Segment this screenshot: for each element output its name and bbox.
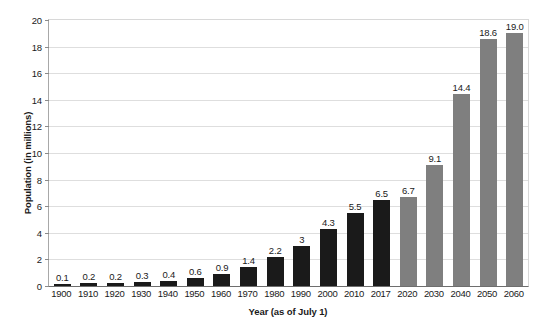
x-tick-label: 1920 bbox=[101, 288, 128, 299]
bar[interactable] bbox=[107, 283, 124, 286]
x-tick-label: 1910 bbox=[75, 288, 102, 299]
bar-value-label: 0.6 bbox=[189, 266, 202, 277]
bar-group: 0.9 bbox=[209, 20, 236, 286]
x-tick-label: 2060 bbox=[500, 288, 527, 299]
bar-group: 14.4 bbox=[448, 20, 475, 286]
bar-group: 9.1 bbox=[422, 20, 449, 286]
bar[interactable] bbox=[480, 39, 497, 286]
x-tick-label: 2030 bbox=[421, 288, 448, 299]
bar[interactable] bbox=[134, 282, 151, 286]
x-tick-label: 1970 bbox=[234, 288, 261, 299]
population-bar-chart: Population (in millions) 024681012141618… bbox=[0, 0, 539, 326]
y-tick-mark bbox=[45, 286, 49, 287]
bar-group: 3 bbox=[289, 20, 316, 286]
x-tick-label: 1960 bbox=[208, 288, 235, 299]
y-tick-label: 12 bbox=[32, 121, 42, 132]
bar[interactable] bbox=[320, 229, 337, 286]
bar[interactable] bbox=[426, 165, 443, 286]
bar-group: 2.2 bbox=[262, 20, 289, 286]
bar[interactable] bbox=[213, 274, 230, 286]
x-tick-label: 1900 bbox=[48, 288, 75, 299]
bar[interactable] bbox=[293, 246, 310, 286]
bar-group: 0.2 bbox=[102, 20, 129, 286]
bar-value-label: 0.4 bbox=[162, 269, 175, 280]
bar[interactable] bbox=[267, 257, 284, 286]
y-tick-label: 0 bbox=[37, 281, 42, 292]
bar-value-label: 5.5 bbox=[349, 201, 362, 212]
bar[interactable] bbox=[400, 197, 417, 286]
y-tick-label: 6 bbox=[37, 201, 42, 212]
bar-group: 6.5 bbox=[368, 20, 395, 286]
x-tick-label: 1940 bbox=[154, 288, 181, 299]
x-tick-label: 1930 bbox=[128, 288, 155, 299]
bar-value-label: 0.2 bbox=[83, 271, 96, 282]
y-tick-label: 20 bbox=[32, 15, 42, 26]
bar[interactable] bbox=[160, 281, 177, 286]
bar-value-label: 0.1 bbox=[56, 272, 69, 283]
bar-value-label: 0.3 bbox=[136, 270, 149, 281]
bar-group: 0.4 bbox=[155, 20, 182, 286]
bar-value-label: 6.7 bbox=[402, 185, 415, 196]
bar[interactable] bbox=[347, 213, 364, 286]
y-tick-label: 18 bbox=[32, 41, 42, 52]
bar[interactable] bbox=[240, 267, 257, 286]
x-tick-label: 2020 bbox=[394, 288, 421, 299]
bar-group: 0.6 bbox=[182, 20, 209, 286]
bar-value-label: 9.1 bbox=[429, 153, 442, 164]
x-tick-label: 2010 bbox=[341, 288, 368, 299]
bar-group: 0.3 bbox=[129, 20, 156, 286]
x-tick-label: 2000 bbox=[314, 288, 341, 299]
x-tick-label: 1990 bbox=[288, 288, 315, 299]
bar-value-label: 4.3 bbox=[322, 217, 335, 228]
bar-value-label: 18.6 bbox=[479, 27, 497, 38]
y-tick-label: 2 bbox=[37, 254, 42, 265]
bar-group: 18.6 bbox=[475, 20, 502, 286]
bar-group: 19.0 bbox=[501, 20, 528, 286]
bar[interactable] bbox=[187, 278, 204, 286]
x-tick-label: 1950 bbox=[181, 288, 208, 299]
bar[interactable] bbox=[506, 33, 523, 286]
y-tick-label: 8 bbox=[37, 174, 42, 185]
x-axis-ticks: 1900191019201930194019501960197019801990… bbox=[48, 288, 527, 302]
bar-group: 1.4 bbox=[235, 20, 262, 286]
bars-layer: 0.10.20.20.30.40.60.91.42.234.35.56.56.7… bbox=[49, 20, 528, 286]
bar[interactable] bbox=[453, 94, 470, 286]
bar-value-label: 0.2 bbox=[109, 271, 122, 282]
bar[interactable] bbox=[80, 283, 97, 286]
y-tick-label: 16 bbox=[32, 68, 42, 79]
bar[interactable] bbox=[373, 200, 390, 286]
bar-value-label: 14.4 bbox=[453, 82, 471, 93]
bar-group: 4.3 bbox=[315, 20, 342, 286]
y-tick-label: 14 bbox=[32, 94, 42, 105]
plot-area: 02468101214161820 0.10.20.20.30.40.60.91… bbox=[48, 19, 529, 287]
x-tick-label: 2050 bbox=[474, 288, 501, 299]
bar[interactable] bbox=[54, 284, 71, 286]
bar-group: 5.5 bbox=[342, 20, 369, 286]
bar-value-label: 3 bbox=[299, 234, 304, 245]
x-tick-label: 1980 bbox=[261, 288, 288, 299]
bar-value-label: 6.5 bbox=[375, 188, 388, 199]
x-tick-label: 2040 bbox=[447, 288, 474, 299]
bar-value-label: 1.4 bbox=[242, 255, 255, 266]
x-axis-title: Year (as of July 1) bbox=[48, 306, 528, 317]
bar-group: 0.1 bbox=[49, 20, 76, 286]
bar-group: 6.7 bbox=[395, 20, 422, 286]
bar-value-label: 19.0 bbox=[506, 21, 524, 32]
y-tick-label: 4 bbox=[37, 227, 42, 238]
bar-value-label: 2.2 bbox=[269, 245, 282, 256]
x-tick-label: 2017 bbox=[367, 288, 394, 299]
bar-group: 0.2 bbox=[76, 20, 103, 286]
y-tick-label: 10 bbox=[32, 148, 42, 159]
bar-value-label: 0.9 bbox=[216, 262, 229, 273]
